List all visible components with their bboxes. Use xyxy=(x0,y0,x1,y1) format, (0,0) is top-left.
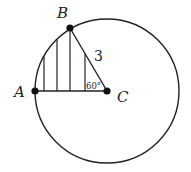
point-c xyxy=(103,87,110,94)
label-c: C xyxy=(117,88,129,106)
point-a xyxy=(31,87,38,94)
angle-label: 60° xyxy=(86,81,101,91)
label-b: B xyxy=(56,4,68,22)
hatch-lines xyxy=(44,29,85,91)
radius-label: 3 xyxy=(94,48,103,64)
label-a: A xyxy=(12,83,25,101)
sector-diagram: A B C 3 60° xyxy=(0,0,191,172)
point-b xyxy=(66,24,73,31)
